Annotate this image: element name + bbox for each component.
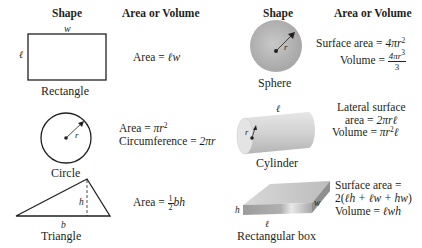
rectangle-name: Rectangle xyxy=(41,84,89,99)
sphere-name: Sphere xyxy=(258,76,291,91)
sphere-shape xyxy=(250,20,302,72)
circle-area-formula: Area = πr2 xyxy=(119,122,168,135)
formula-exponent: 2 xyxy=(164,121,168,130)
box-length-label: ℓ xyxy=(265,219,269,229)
formula-prefix: Area = xyxy=(133,51,168,63)
formula-prefix: Volume = xyxy=(335,205,383,217)
sphere-radius-label: r xyxy=(284,42,288,52)
box-surface-area-formula: 2(ℓh + ℓw + hw) xyxy=(335,192,412,205)
box-surface-area-line1: Surface area = xyxy=(335,179,402,192)
formula-expr: ℓh + ℓw + hw xyxy=(345,192,408,204)
formula-expr: 2πrℓ xyxy=(376,114,397,126)
formula-expr-tail: ℓ xyxy=(394,126,399,138)
triangle-name: Triangle xyxy=(41,229,81,244)
formula-expr: πr xyxy=(380,126,390,138)
formula-prefix: Surface area = xyxy=(316,37,385,49)
circle-radius-label: r xyxy=(75,130,79,140)
cylinder-shape xyxy=(237,112,315,154)
rect-length-label: ℓ xyxy=(19,49,23,60)
box-width-label: w xyxy=(314,198,321,208)
formula-prefix: Area = xyxy=(119,122,154,134)
sphere-surface-area-formula: Surface area = 4πr2 xyxy=(316,37,405,50)
formula-prefix: Volume = xyxy=(340,54,388,66)
formula-prefix: Volume = xyxy=(332,126,380,138)
triangle-area-formula: Area = 12bh xyxy=(133,195,185,212)
frac-num: 4πr3 xyxy=(388,51,406,62)
formula-exponent: 2 xyxy=(401,36,405,45)
paren-open: 2( xyxy=(335,192,345,204)
formula-expr: bh xyxy=(174,196,186,208)
circle-shape xyxy=(41,113,91,163)
formula-prefix: Circumference = xyxy=(119,135,200,147)
cylinder-length-label: ℓ xyxy=(276,103,280,114)
rectangle-shape xyxy=(28,34,106,80)
paren-close: ) xyxy=(408,192,412,204)
triangle-height-label: h xyxy=(79,197,84,207)
frac-num-exponent: 3 xyxy=(401,48,405,57)
formula-expr: 2πr xyxy=(200,135,216,147)
cylinder-volume-formula: Volume = πr2ℓ xyxy=(332,126,399,139)
formula-expr: ℓw xyxy=(168,51,180,63)
circle-circumference-formula: Circumference = 2πr xyxy=(119,135,216,148)
formula-prefix: Area = xyxy=(133,196,168,208)
formula-prefix: area = xyxy=(345,114,376,126)
formula-expr: πr xyxy=(154,122,164,134)
box-name: Rectangular box xyxy=(237,229,316,244)
fraction-volume: 4πr33 xyxy=(388,51,406,72)
rectangle-area-formula: Area = ℓw xyxy=(133,51,180,64)
rect-width-label: w xyxy=(64,23,71,34)
box-volume-formula: Volume = ℓwh xyxy=(335,205,401,218)
formula-expr: ℓwh xyxy=(383,205,401,217)
frac-num-expr: 4πr xyxy=(389,51,402,61)
circle-name: Circle xyxy=(51,166,80,181)
triangle-shape xyxy=(16,179,110,216)
frac-den: 3 xyxy=(388,62,406,72)
sphere-volume-formula: Volume = 4πr33 xyxy=(340,51,406,72)
cylinder-name: Cylinder xyxy=(256,156,298,171)
cylinder-lateral-line1: Lateral surface xyxy=(337,101,406,114)
box-height-label: h xyxy=(235,205,240,215)
formula-expr: 4πr xyxy=(385,37,401,49)
